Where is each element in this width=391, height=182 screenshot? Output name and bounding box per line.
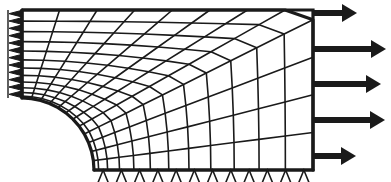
roller-support-icon — [9, 91, 22, 98]
load-arrow-head — [371, 40, 386, 58]
mesh-ring-line — [22, 98, 94, 170]
load-arrow-1 — [313, 4, 357, 22]
finite-element-mesh-figure — [0, 0, 391, 182]
roller-support-icon — [9, 18, 22, 25]
roller-support-icon — [299, 170, 310, 182]
load-arrow-shaft — [313, 10, 342, 16]
load-arrow-head — [342, 4, 357, 22]
load-arrow-shaft — [313, 153, 341, 159]
load-arrow-shaft — [313, 81, 366, 87]
roller-support-icon — [9, 47, 22, 54]
roller-support-icon — [134, 170, 145, 182]
roller-support-icon — [116, 170, 127, 182]
roller-support-icon — [9, 54, 22, 61]
load-arrow-shaft — [313, 46, 371, 52]
roller-support-icon — [9, 32, 22, 39]
mesh-ring-line — [22, 93, 108, 170]
roller-support-icon — [9, 40, 22, 47]
roller-support-icon — [153, 170, 164, 182]
mesh-radial-line — [93, 132, 313, 160]
load-arrow-2 — [313, 40, 386, 58]
load-arrow-5 — [313, 147, 356, 165]
figure-container — [0, 0, 391, 182]
load-arrow-head — [366, 75, 381, 93]
roller-support-icon — [9, 84, 22, 91]
roller-support-icon — [9, 76, 22, 83]
roller-support-icon — [171, 170, 182, 182]
bottom-edge-roller-supports — [98, 170, 309, 182]
roller-support-icon — [189, 170, 200, 182]
roller-support-icon — [207, 170, 218, 182]
mesh-radial-line — [50, 10, 135, 103]
roller-support-icon — [280, 170, 291, 182]
roller-support-icon — [9, 69, 22, 76]
roller-support-icon — [262, 170, 273, 182]
mesh-radial-line — [92, 95, 313, 152]
roller-support-icon — [98, 170, 109, 182]
load-arrow-shaft — [313, 117, 370, 123]
mesh-radial-line — [79, 10, 285, 126]
left-edge-roller-supports — [8, 10, 22, 98]
load-arrow-head — [370, 111, 385, 129]
roller-support-icon — [244, 170, 255, 182]
roller-support-icon — [9, 62, 22, 69]
right-edge-load-arrows — [313, 4, 386, 165]
roller-support-icon — [9, 10, 22, 17]
roller-support-icon — [226, 170, 237, 182]
mesh-interior-lines — [22, 10, 313, 170]
load-arrow-head — [341, 147, 356, 165]
roller-support-icon — [9, 25, 22, 32]
load-arrow-3 — [313, 75, 381, 93]
load-arrow-4 — [313, 111, 385, 129]
